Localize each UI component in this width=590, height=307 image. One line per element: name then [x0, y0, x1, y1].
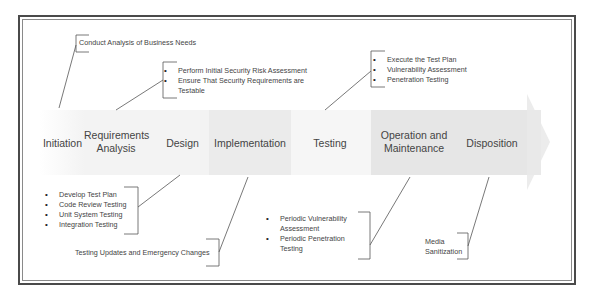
note-design-item: Code Review Testing	[45, 200, 126, 210]
note-initiation-text: Conduct Analysis of Business Needs	[79, 38, 196, 47]
connector-operation	[370, 177, 410, 245]
note-requirements-item: Perform Initial Security Risk Assessment	[164, 66, 354, 76]
stage-implementation-label: Implementation	[214, 137, 286, 149]
note-design-item: Integration Testing	[45, 220, 126, 230]
stage-testing-label: Testing	[313, 137, 346, 149]
note-testing-item: Vulnerability Assessment	[373, 65, 467, 75]
note-implementation-text: Testing Updates and Emergency Changes	[75, 248, 210, 257]
stage-initiation: Initiation	[40, 137, 85, 150]
note-requirements-item: Ensure That Security Requirements are Te…	[164, 76, 328, 96]
note-disposition: Media Sanitization	[425, 237, 462, 257]
note-testing-item: Execute the Test Plan	[373, 55, 467, 65]
connector-initiation	[59, 45, 76, 108]
note-implementation: Testing Updates and Emergency Changes	[75, 248, 210, 258]
note-testing-item: Penetration Testing	[373, 75, 467, 85]
stage-operation-label-line1: Operation and	[375, 129, 453, 142]
note-disposition-line1: Media	[425, 237, 462, 247]
note-testing: Execute the Test Plan Vulnerability Asse…	[373, 55, 467, 85]
connector-design	[138, 175, 180, 207]
note-initiation: Conduct Analysis of Business Needs	[79, 38, 196, 48]
note-operation-item: Periodic Penetration Testing	[266, 234, 358, 254]
stage-disposition-label: Disposition	[466, 137, 517, 149]
stage-operation-maintenance: Operation and Maintenance	[375, 129, 453, 155]
stage-implementation: Implementation	[211, 137, 289, 150]
stage-initiation-label: Initiation	[43, 137, 82, 149]
note-design-item: Develop Test Plan	[45, 190, 126, 200]
note-design: Develop Test Plan Code Review Testing Un…	[45, 190, 126, 230]
stage-disposition: Disposition	[462, 137, 522, 150]
note-operation-item: Periodic Vulnerability Assessment	[266, 214, 358, 234]
connector-requirements	[116, 80, 163, 110]
connector-disposition	[468, 177, 489, 246]
bracket-operation	[358, 212, 370, 259]
stage-design: Design	[160, 137, 205, 150]
stage-requirements-label-line2: Analysis	[84, 142, 148, 155]
note-requirements: Perform Initial Security Risk Assessment…	[164, 66, 354, 96]
stage-requirements-analysis: Requirements Analysis	[84, 129, 148, 155]
stage-design-label: Design	[166, 137, 199, 149]
stage-testing: Testing	[305, 137, 355, 150]
stage-operation-label-line2: Maintenance	[375, 142, 453, 155]
note-design-item: Unit System Testing	[45, 210, 126, 220]
stage-requirements-label-line1: Requirements	[84, 129, 148, 142]
note-operation: Periodic Vulnerability Assessment Period…	[266, 214, 358, 254]
connector-implementation	[219, 177, 248, 252]
note-disposition-line2: Sanitization	[425, 247, 462, 257]
